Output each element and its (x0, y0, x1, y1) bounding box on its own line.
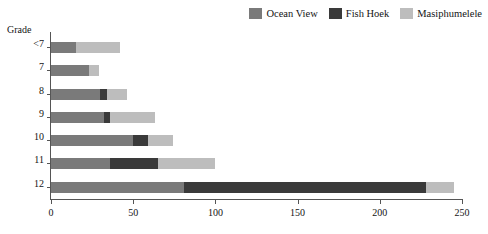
legend-label: Masiphumelele (417, 8, 482, 19)
stacked-bar[interactable] (51, 135, 173, 146)
x-axis-tick (462, 199, 463, 204)
stacked-bar[interactable] (51, 158, 215, 169)
bar-segment[interactable] (110, 158, 158, 169)
bar-row: 11 (51, 152, 462, 175)
x-axis-tick-label: 0 (49, 207, 54, 219)
legend-label: Ocean View (266, 8, 317, 19)
x-axis-tick (298, 199, 299, 204)
bar-row: 10 (51, 129, 462, 152)
legend-label: Fish Hoek (346, 8, 389, 19)
legend-swatch-icon (329, 8, 342, 19)
x-axis-tick (51, 199, 52, 204)
x-axis-tick-label: 200 (372, 207, 387, 219)
bar-row: <7 (51, 36, 462, 59)
bar-segment[interactable] (110, 112, 154, 123)
x-axis-tick-label: 100 (208, 207, 223, 219)
x-axis-tick (380, 199, 381, 204)
stacked-bar[interactable] (51, 42, 120, 53)
bar-segment[interactable] (51, 182, 184, 193)
x-axis-tick-label: 50 (128, 207, 138, 219)
bar-row: 9 (51, 106, 462, 129)
y-axis-title: Grade (7, 24, 31, 35)
stacked-bar[interactable] (51, 65, 99, 76)
plot-area: <7789101112 050100150200250 (51, 36, 462, 199)
bar-segment[interactable] (107, 89, 127, 100)
legend-swatch-icon (249, 8, 262, 19)
x-axis-tick (215, 199, 216, 204)
bar-segment[interactable] (426, 182, 454, 193)
y-axis-tick-label: 10 (34, 131, 44, 143)
bar-segment[interactable] (76, 42, 120, 53)
bar-segment[interactable] (51, 135, 133, 146)
bar-segment[interactable] (148, 135, 173, 146)
x-axis-tick-label: 150 (290, 207, 305, 219)
x-axis-line (50, 199, 462, 200)
x-axis-tick (133, 199, 134, 204)
bar-segment[interactable] (51, 112, 104, 123)
legend-item-fish-hoek[interactable]: Fish Hoek (329, 8, 389, 19)
bar-segment[interactable] (51, 65, 89, 76)
bar-row: 8 (51, 83, 462, 106)
y-axis-tick-label: 7 (39, 61, 44, 73)
legend-swatch-icon (400, 8, 413, 19)
y-axis-tick-label: 11 (34, 154, 44, 166)
stacked-bar-chart: Ocean View Fish Hoek Masiphumelele Grade… (0, 0, 488, 234)
legend-item-masiphumelele[interactable]: Masiphumelele (400, 8, 482, 19)
stacked-bar[interactable] (51, 89, 127, 100)
bar-row: 12 (51, 176, 462, 199)
y-axis-tick-label: 12 (34, 178, 44, 190)
stacked-bar[interactable] (51, 112, 155, 123)
bar-segment[interactable] (158, 158, 216, 169)
bar-segment[interactable] (89, 65, 99, 76)
bar-segment[interactable] (51, 89, 100, 100)
chart-legend: Ocean View Fish Hoek Masiphumelele (249, 6, 482, 20)
bar-segment[interactable] (51, 158, 110, 169)
stacked-bar[interactable] (51, 182, 454, 193)
bar-row: 7 (51, 59, 462, 82)
x-axis-tick-label: 250 (455, 207, 470, 219)
bar-segment[interactable] (51, 42, 76, 53)
bar-segment[interactable] (133, 135, 148, 146)
y-axis-tick-label: 8 (39, 85, 44, 97)
bar-segment[interactable] (184, 182, 426, 193)
y-axis-tick-label: 9 (39, 108, 44, 120)
y-axis-tick-label: <7 (33, 38, 44, 50)
legend-item-ocean-view[interactable]: Ocean View (249, 8, 317, 19)
